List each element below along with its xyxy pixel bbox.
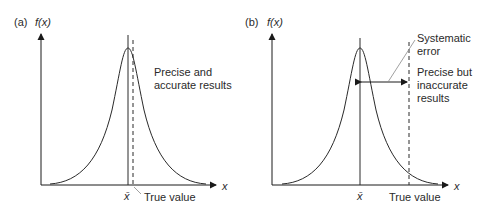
panel-b-x-axis-label: x <box>453 180 460 192</box>
panel-a-true-value-leader <box>134 187 141 194</box>
panel-a-mean-label: x̄ <box>123 190 130 202</box>
panel-a-annotation-line2: accurate results <box>154 79 232 91</box>
panel-a-label: (a) <box>14 16 27 28</box>
panel-b-annotation-line2: inaccurate <box>417 79 468 91</box>
panel-b-mean-label: x̄ <box>356 190 363 202</box>
panel-b-systematic-line2: error <box>417 45 441 57</box>
panel-b-systematic-error-leader <box>388 40 415 82</box>
panel-b-annotation-line1: Precise but <box>417 66 472 78</box>
panel-a-x-axis-label: x <box>221 180 228 192</box>
panel-b-label: (b) <box>245 16 258 28</box>
panel-b-true-value-label: True value <box>389 191 441 203</box>
panel-a: (a) f(x) x x̄ True value Precise and acc… <box>14 16 232 203</box>
diagram-canvas: (a) f(x) x x̄ True value Precise and acc… <box>0 0 485 212</box>
panel-b-systematic-line1: Systematic <box>417 32 471 44</box>
panel-a-true-value-label: True value <box>144 191 196 203</box>
panel-b-annotation-line3: results <box>417 92 450 104</box>
panel-b-y-axis-label: f(x) <box>267 16 283 28</box>
panel-b: (b) f(x) x x̄ True value Systematic erro… <box>245 16 472 203</box>
panel-a-annotation-line1: Precise and <box>154 66 212 78</box>
panel-a-y-axis-label: f(x) <box>35 16 51 28</box>
